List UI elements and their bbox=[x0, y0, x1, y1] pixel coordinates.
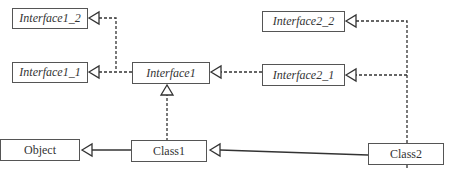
arrowhead-interface1_2 bbox=[89, 12, 99, 24]
interface2_2-label: Interface2_2 bbox=[273, 14, 334, 29]
edge-class2-to-class1 bbox=[220, 150, 368, 155]
class1-label: Class1 bbox=[153, 144, 185, 159]
class2-box: Class2 bbox=[368, 143, 444, 165]
object-box: Object bbox=[0, 139, 80, 161]
interface1-label: Interface1 bbox=[146, 66, 195, 81]
arrowhead-interface1-right bbox=[211, 66, 221, 78]
object-label: Object bbox=[24, 143, 56, 158]
class1-box: Class1 bbox=[131, 140, 207, 162]
interface1-box: Interface1 bbox=[132, 62, 210, 84]
arrowhead-object bbox=[82, 144, 92, 156]
interface2_1-label: Interface2_1 bbox=[273, 68, 334, 83]
arrowhead-class1 bbox=[210, 144, 220, 156]
arrowhead-interface1-bottom bbox=[161, 85, 173, 95]
class2-label: Class2 bbox=[390, 147, 422, 162]
interface1_2-label: Interface1_2 bbox=[19, 11, 80, 26]
interface1_1-box: Interface1_1 bbox=[12, 62, 88, 83]
interface1_1-label: Interface1_1 bbox=[19, 65, 80, 80]
arrowhead-interface2_1 bbox=[346, 69, 356, 81]
edge-interface1-to-interface1_2 bbox=[99, 18, 116, 69]
interface1_2-box: Interface1_2 bbox=[12, 8, 88, 29]
uml-diagram: Interface1_2 Interface1_1 Interface1 Int… bbox=[0, 0, 449, 174]
arrowhead-interface2_2 bbox=[346, 15, 356, 27]
interface2_2-box: Interface2_2 bbox=[262, 11, 345, 32]
arrowhead-interface1_1 bbox=[89, 66, 99, 78]
interface2_1-box: Interface2_1 bbox=[262, 64, 345, 86]
